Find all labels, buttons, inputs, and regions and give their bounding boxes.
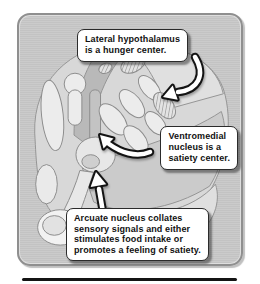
figure: Lateral hypothalamus is a hunger center.… — [0, 0, 260, 284]
callout-arcuate-nucleus: Arcuate nucleus collates sensory signals… — [66, 208, 209, 261]
bottom-divider — [22, 278, 237, 281]
callout-lateral-hypothalamus: Lateral hypothalamus is a hunger center. — [77, 29, 188, 62]
callout-ventromedial-nucleus: Ventromedial nucleus is a satiety center… — [160, 126, 238, 170]
